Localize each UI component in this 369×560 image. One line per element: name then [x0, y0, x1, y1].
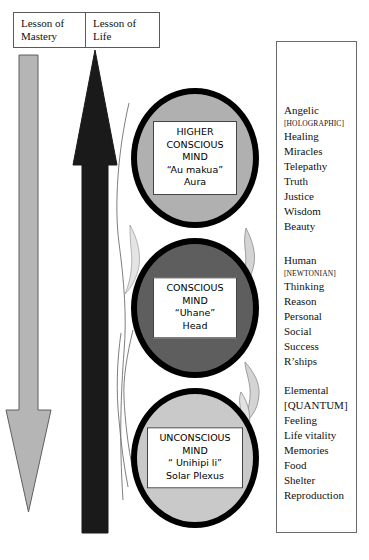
- conscious-mind-label: CONSCIOUS MIND “Uhane” Head: [153, 277, 237, 338]
- lesson-header-boxes: Lesson of Mastery Lesson of Life: [13, 12, 160, 48]
- higher-conscious-mind-circle[interactable]: HIGHER CONSCIOUS MIND “Au makua” Aura: [131, 88, 259, 228]
- label-line: MIND: [157, 151, 233, 164]
- attribute-item: Success: [284, 339, 358, 354]
- diagram-canvas: Lesson of Mastery Lesson of Life HIGHER …: [0, 0, 369, 560]
- label-line: “ Unihipi li”: [151, 458, 239, 471]
- attribute-item: Wisdom: [284, 204, 358, 219]
- attribute-item: Food: [284, 458, 358, 473]
- lesson-of-mastery-box[interactable]: Lesson of Mastery: [14, 13, 86, 47]
- attribute-item: [QUANTUM]: [284, 398, 358, 413]
- attribute-item: Feeling: [284, 413, 358, 428]
- attribute-item: R’ships: [284, 354, 358, 369]
- attribute-item: Social: [284, 324, 358, 339]
- label-line: Aura: [157, 176, 233, 189]
- attribute-item: Reason: [284, 294, 358, 309]
- attribute-item: Life vitality: [284, 428, 358, 443]
- label-line: Solar Plexus: [151, 470, 239, 483]
- unconscious-mind-label: UNCONSCIOUS MIND “ Unihipi li” Solar Ple…: [147, 427, 243, 488]
- unconscious-mind-circle[interactable]: UNCONSCIOUS MIND “ Unihipi li” Solar Ple…: [131, 388, 259, 528]
- label-line: CONSCIOUS: [157, 139, 233, 152]
- label-line: MIND: [151, 445, 239, 458]
- label-line: UNCONSCIOUS: [151, 432, 239, 445]
- attribute-item: Shelter: [284, 473, 358, 488]
- label-line: MIND: [157, 295, 233, 308]
- lesson-of-life-box[interactable]: Lesson of Life: [86, 13, 159, 47]
- attribute-item: Beauty: [284, 219, 358, 234]
- attribute-tag: [NEWTONIAN]: [284, 268, 358, 279]
- attribute-item: Elemental: [284, 383, 358, 398]
- higher-conscious-mind-label: HIGHER CONSCIOUS MIND “Au makua” Aura: [153, 121, 237, 195]
- attribute-item: Personal: [284, 309, 358, 324]
- label-line: “Au makua”: [157, 164, 233, 177]
- attribute-item: Human: [284, 253, 358, 268]
- conscious-mind-circle[interactable]: CONSCIOUS MIND “Uhane” Head: [131, 238, 259, 378]
- label-line: “Uhane”: [157, 308, 233, 321]
- label-line: HIGHER: [157, 126, 233, 139]
- attribute-item: Memories: [284, 443, 358, 458]
- elemental-attribute-group: Elemental [QUANTUM] Feeling Life vitalit…: [284, 383, 358, 503]
- lesson-of-life-arrow: [73, 50, 117, 533]
- angelic-attribute-group: Angelic [HOLOGRAPHIC] Healing Miracles T…: [284, 103, 358, 234]
- attribute-item: Justice: [284, 189, 358, 204]
- attribute-item: Miracles: [284, 144, 358, 159]
- attribute-tag: [HOLOGRAPHIC]: [284, 118, 358, 129]
- label-line: Head: [157, 320, 233, 333]
- attribute-item: Angelic: [284, 103, 358, 118]
- attribute-item: Reproduction: [284, 488, 358, 503]
- attribute-item: Healing: [284, 129, 358, 144]
- human-attribute-group: Human [NEWTONIAN] Thinking Reason Person…: [284, 253, 358, 369]
- label-line: CONSCIOUS: [157, 282, 233, 295]
- attributes-panel: Angelic [HOLOGRAPHIC] Healing Miracles T…: [276, 41, 357, 533]
- lesson-of-mastery-arrow: [6, 55, 51, 512]
- attribute-item: Telepathy: [284, 159, 358, 174]
- attribute-item: Thinking: [284, 279, 358, 294]
- attribute-item: Truth: [284, 174, 358, 189]
